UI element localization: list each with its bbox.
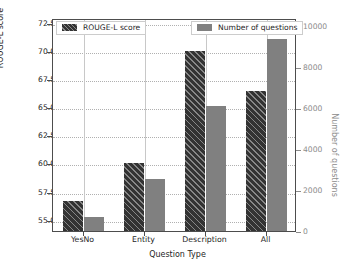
legend-swatch-icon (197, 24, 212, 31)
x-tick-mark (205, 232, 206, 236)
y-tick-mark-right (296, 232, 301, 233)
chart-figure: 55.057.560.062.565.067.570.072.5 0200040… (0, 0, 355, 274)
y-tick-label-right: 6000 (303, 105, 349, 113)
y-tick-mark-right (296, 191, 301, 192)
gridline (84, 20, 85, 231)
y-tick-mark-right (296, 68, 301, 69)
gridline (53, 81, 295, 82)
y-tick-label-right: 2000 (303, 187, 349, 195)
y-tick-label-right: 0 (303, 228, 349, 236)
legend-label: Number of questions (218, 24, 297, 32)
bar-question-count (267, 39, 287, 232)
legend-swatch-icon (62, 24, 77, 31)
legend-question-count[interactable]: Number of questions (191, 21, 303, 35)
x-tick-label: All (226, 236, 306, 244)
x-tick-mark (266, 232, 267, 236)
y-tick-mark-right (296, 109, 301, 110)
plot-area (52, 19, 296, 232)
x-tick-mark (83, 232, 84, 236)
y-tick-label-right: 8000 (303, 64, 349, 72)
y-axis-right-title: Number of questions (330, 95, 338, 215)
y-tick-label-right: 10000 (303, 23, 349, 31)
y-axis-left-title: ROUGE-L score (0, 0, 5, 98)
legend-label: ROUGE-L score (83, 24, 140, 32)
x-axis-title: Question Type (0, 251, 355, 259)
bar-rouge-score (185, 51, 205, 231)
x-tick-mark (144, 232, 145, 236)
bar-rouge-score (124, 163, 144, 231)
bar-question-count (206, 106, 226, 231)
bar-question-count (84, 217, 104, 231)
bar-rouge-score (63, 201, 83, 231)
bar-question-count (145, 179, 165, 231)
bar-rouge-score (246, 91, 266, 231)
y-tick-label-right: 4000 (303, 146, 349, 154)
gridline (53, 53, 295, 54)
legend-rouge-score[interactable]: ROUGE-L score (56, 21, 146, 35)
y-tick-mark-right (296, 150, 301, 151)
